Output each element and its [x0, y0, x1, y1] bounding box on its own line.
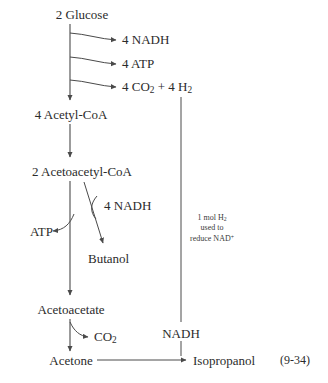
- product-co2-sub: 2: [112, 335, 117, 345]
- cofactor-nadh-bottom: NADH: [159, 327, 203, 340]
- node-acetoacetate: Acetoacetate: [37, 303, 104, 316]
- product-co2: CO2: [94, 330, 117, 345]
- arrow-acetoacetylcoa-to-butanol: [84, 182, 103, 243]
- annotation-h2-reduces-nad: 1 mol H2 used to reduce NAD+: [190, 213, 234, 244]
- product-co2-h2-text: 4 CO: [122, 79, 150, 94]
- annotation-line-2: used to: [201, 223, 224, 232]
- arrow-branch-nadh: [70, 33, 116, 40]
- node-butanol: Butanol: [88, 252, 129, 265]
- product-atp: ATP: [30, 225, 53, 238]
- arrow-cofactor-nadh-butanol: [92, 196, 97, 219]
- pathway-figure: 2 Glucose 4 Acetyl-CoA 2 Acetoacetyl-CoA…: [0, 0, 328, 383]
- annotation-line-1-text: 1 mol H: [197, 213, 223, 222]
- equation-number: (9-34): [280, 354, 310, 366]
- annotation-line-3: reduce NAD+: [190, 234, 234, 243]
- node-glucose: 2 Glucose: [56, 8, 108, 21]
- node-acetoacetyl-coa: 2 Acetoacetyl-CoA: [32, 165, 132, 178]
- product-co2-h2: 4 CO2 + 4 H2: [122, 80, 192, 95]
- arrow-branch-co2: [70, 322, 88, 337]
- node-acetyl-coa: 4 Acetyl-CoA: [35, 108, 108, 121]
- node-isopropanol: Isopropanol: [193, 354, 255, 367]
- cofactor-nadh-butanol: 4 NADH: [104, 199, 151, 212]
- product-nadh-4: 4 NADH: [122, 33, 169, 46]
- product-atp-4: 4 ATP: [122, 57, 154, 70]
- arrow-branch-atp: [70, 57, 116, 64]
- annotation-line-3-sup: +: [231, 233, 234, 239]
- product-co2-label: CO: [94, 329, 112, 344]
- annotation-line-1: 1 mol H2: [197, 213, 226, 222]
- arrow-branch-co2-h2: [70, 80, 116, 87]
- node-acetone: Acetone: [49, 354, 92, 367]
- product-h2-subscript: 2: [187, 85, 192, 95]
- product-co2-h2-mid: + 4 H: [154, 79, 187, 94]
- annotation-line-3-text: reduce NAD: [190, 234, 231, 243]
- arrow-branch-atp-single: [53, 214, 74, 231]
- annotation-line-1-sub: 2: [224, 216, 227, 222]
